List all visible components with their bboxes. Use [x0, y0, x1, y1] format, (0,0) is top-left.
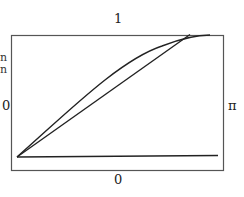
frame-box: [12, 36, 224, 171]
diagram-figure: [0, 0, 244, 197]
concave-curve: [17, 35, 210, 157]
baseline-curve: [17, 156, 218, 158]
straight-line-curve: [17, 35, 190, 158]
